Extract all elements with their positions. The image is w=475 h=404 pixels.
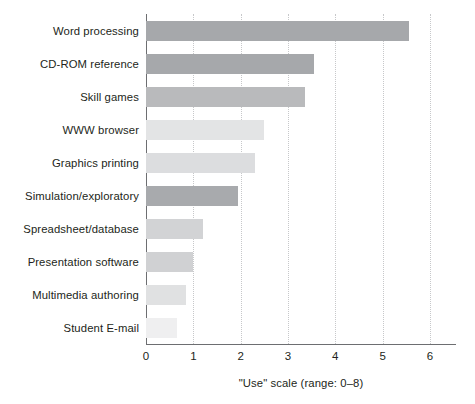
x-tick-label: 1 bbox=[178, 350, 208, 362]
x-tick-label: 3 bbox=[273, 350, 303, 362]
category-label: Simulation/exploratory bbox=[0, 190, 139, 202]
bar bbox=[146, 252, 193, 272]
category-label: Skill games bbox=[0, 91, 139, 103]
x-axis-line bbox=[146, 344, 456, 345]
bar bbox=[146, 285, 186, 305]
category-label: Spreadsheet/database bbox=[0, 223, 139, 235]
category-label: Graphics printing bbox=[0, 157, 139, 169]
category-label: Word processing bbox=[0, 25, 139, 37]
x-tick-label: 4 bbox=[320, 350, 350, 362]
bar-chart: Word processingCD-ROM referenceSkill gam… bbox=[0, 0, 475, 404]
x-tick-label: 5 bbox=[368, 350, 398, 362]
x-tick-label: 2 bbox=[226, 350, 256, 362]
bar bbox=[146, 87, 305, 107]
gridline-x-6 bbox=[430, 14, 432, 344]
bar bbox=[146, 219, 203, 239]
bar bbox=[146, 120, 264, 140]
gridline-x-4 bbox=[335, 14, 337, 344]
bar bbox=[146, 21, 409, 41]
category-axis-labels: Word processingCD-ROM referenceSkill gam… bbox=[0, 14, 139, 345]
category-label: CD-ROM reference bbox=[0, 58, 139, 70]
category-label: Multimedia authoring bbox=[0, 289, 139, 301]
x-axis-tick-labels: 0123456 bbox=[146, 350, 466, 368]
category-label: Student E-mail bbox=[0, 322, 139, 334]
bar bbox=[146, 54, 314, 74]
plot-area bbox=[146, 14, 456, 345]
category-label: WWW browser bbox=[0, 124, 139, 136]
bar bbox=[146, 153, 255, 173]
category-label: Presentation software bbox=[0, 256, 139, 268]
x-tick-label: 0 bbox=[131, 350, 161, 362]
x-tick-label: 6 bbox=[415, 350, 445, 362]
bar bbox=[146, 318, 177, 338]
bar bbox=[146, 186, 238, 206]
x-axis-title: "Use" scale (range: 0–8) bbox=[146, 377, 456, 389]
gridline-x-5 bbox=[383, 14, 385, 344]
